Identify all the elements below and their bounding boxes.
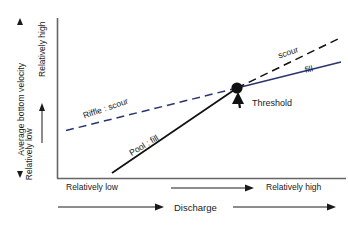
x-axis-title: Discharge <box>174 203 217 213</box>
y-axis-low-label: Relatively low <box>25 118 34 190</box>
fill-line-right <box>237 62 341 88</box>
discharge-arrow-right-icon <box>327 204 336 211</box>
diagram-canvas <box>0 0 348 232</box>
x-axis-high-label: Relatively high <box>266 183 321 192</box>
threshold-arrow-icon <box>232 92 244 104</box>
threshold-point-marker <box>231 82 242 93</box>
discharge-arrow-left-icon <box>155 204 164 211</box>
y-axis-inner-arrow-icon <box>39 103 45 111</box>
y-axis-high-label: Relatively high <box>38 13 47 85</box>
x-axis-low-label: Relatively low <box>66 183 118 192</box>
y-axis-arrow-up-icon <box>17 18 23 25</box>
threshold-label: Threshold <box>252 99 292 108</box>
scour-line-right <box>237 38 340 88</box>
x-range-arrow-icon <box>245 185 254 192</box>
fill-label: fill <box>304 64 314 74</box>
pool-fill-line-left <box>112 88 237 173</box>
